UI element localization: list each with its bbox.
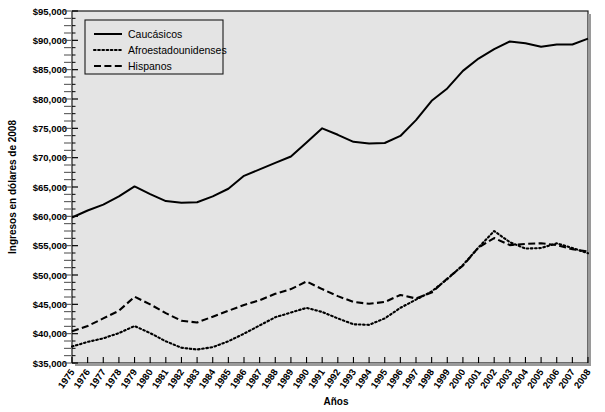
y-tick-label: $35,000 — [33, 358, 67, 369]
plot-shadow-right — [588, 14, 591, 366]
chart-canvas: $35,000$40,000$45,000$50,000$55,000$60,0… — [0, 0, 605, 412]
y-tick-label: $95,000 — [33, 6, 67, 17]
y-tick-label: $80,000 — [33, 94, 67, 105]
legend-label: Caucásicos — [128, 28, 182, 40]
y-tick-label: $55,000 — [33, 240, 67, 251]
y-tick-label: $40,000 — [33, 328, 67, 339]
y-tick-label: $85,000 — [33, 64, 67, 75]
y-tick-label: $70,000 — [33, 152, 67, 163]
y-tick-label: $45,000 — [33, 299, 67, 310]
y-tick-label: $60,000 — [33, 211, 67, 222]
y-tick-label: $90,000 — [33, 35, 67, 46]
x-tick-label: 2008 — [572, 367, 593, 391]
income-by-race-line-chart: $35,000$40,000$45,000$50,000$55,000$60,0… — [0, 0, 605, 412]
legend-label: Hispanos — [128, 60, 172, 72]
y-tick-label: $75,000 — [33, 123, 67, 134]
y-axis: $35,000$40,000$45,000$50,000$55,000$60,0… — [33, 6, 78, 369]
x-axis-title: Años — [324, 396, 349, 407]
y-tick-label: $65,000 — [33, 182, 67, 193]
plot-shadow-bottom — [75, 363, 591, 366]
y-axis-title: Ingresos en dólares de 2008 — [7, 120, 18, 254]
y-tick-label: $50,000 — [33, 270, 67, 281]
legend-label: Afroestadounidenses — [128, 44, 227, 56]
chart-legend: CaucásicosAfroestadounidensesHispanos — [85, 20, 227, 74]
